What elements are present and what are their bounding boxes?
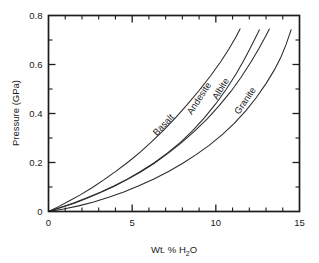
chart-figure: 051015 00.20.40.60.8 BasaltAndesiteAlbit… [0,0,319,263]
y-tick-label: 0.6 [29,59,42,70]
x-axis-title: Wt. % H2O [151,244,197,257]
y-tick-label: 0.4 [29,108,42,119]
y-axis-title: Pressure (GPa) [10,80,21,146]
x-tick-label: 5 [130,217,135,228]
x-tick-label: 15 [294,217,305,228]
x-tick-label: 0 [46,217,51,228]
y-tick-label: 0 [37,206,42,217]
x-tick-label: 10 [211,217,222,228]
y-tick-label: 0.2 [29,157,42,168]
water-solubility-plot: 051015 00.20.40.60.8 BasaltAndesiteAlbit… [0,0,319,263]
y-tick-label: 0.8 [29,10,42,21]
